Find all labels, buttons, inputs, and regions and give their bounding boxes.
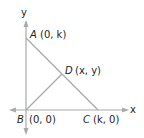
- point-d-name: D: [65, 65, 73, 76]
- x-axis-label: x: [130, 104, 136, 115]
- point-c-name: C: [83, 114, 90, 125]
- x-axis-right-arrow-icon: [122, 108, 129, 113]
- point-b-coords: (0, 0): [29, 114, 56, 125]
- point-b-name: B: [17, 114, 24, 125]
- y-axis-label: y: [21, 7, 27, 18]
- point-c-coords: (k, 0): [93, 114, 119, 125]
- point-d-coords: (x, y): [75, 65, 101, 76]
- y-axis-down-arrow-icon: [24, 128, 29, 135]
- point-a-name: A: [29, 29, 37, 40]
- y-axis-up-arrow-icon: [24, 20, 29, 27]
- x-axis-left-arrow-icon: [9, 108, 16, 113]
- coordinate-diagram: y x A (0, k) D (x, y) B (0, 0) C (k, 0): [0, 0, 144, 138]
- point-a-coords: (0, k): [40, 29, 66, 40]
- segment-bd: [26, 74, 62, 110]
